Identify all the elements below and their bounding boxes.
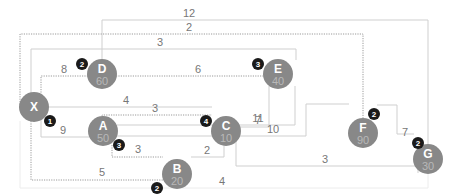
edges-layer: [20, 20, 428, 188]
node-letter: F: [359, 121, 366, 135]
node-e[interactable]: E40: [263, 59, 293, 89]
edge-weight-label: 2: [186, 21, 192, 33]
edge-weight-label: 3: [157, 36, 163, 48]
order-badge-a: 3: [113, 139, 125, 151]
edge-weight-label: 4: [123, 94, 129, 106]
order-badge-b: 2: [151, 182, 163, 194]
node-letter: A: [99, 119, 108, 133]
badge-number: 2: [155, 184, 160, 193]
badge-number: 2: [372, 110, 377, 119]
edge-x-e: [31, 49, 296, 93]
badge-number: 1: [48, 117, 53, 126]
edge-f-g: [377, 105, 414, 134]
edge-weight-label: 5: [99, 166, 105, 178]
node-letter: D: [98, 62, 107, 76]
edge-weight-label: 3: [135, 143, 141, 155]
edge-weight-label: 9: [60, 124, 66, 136]
edge-a-c: [102, 115, 212, 117]
edge-weight-label: 3: [322, 153, 328, 165]
edge-weight-label: 4: [219, 175, 225, 187]
node-letter: C: [222, 119, 231, 133]
node-letter: B: [173, 162, 182, 176]
edge-weight-label: 8: [61, 63, 67, 75]
network-diagram: 12238643791110327354 X1D602E403C104F902G…: [0, 0, 455, 196]
badge-number: 2: [416, 139, 421, 148]
edge-weight-label: 3: [152, 102, 158, 114]
node-value: 10: [220, 132, 232, 144]
badge-number: 3: [117, 141, 122, 150]
edge-weight-label: 11: [252, 112, 263, 124]
badge-number: 3: [256, 60, 261, 69]
node-letter: G: [423, 147, 432, 161]
node-d[interactable]: D60: [87, 59, 117, 89]
node-b[interactable]: B20: [162, 159, 192, 189]
badge-number: 2: [80, 60, 85, 69]
node-f[interactable]: F90: [348, 118, 378, 148]
node-letter: E: [274, 62, 282, 76]
node-value: 30: [422, 160, 434, 172]
node-value: 20: [171, 175, 183, 187]
order-badge-c: 4: [200, 115, 212, 127]
edge-weight-label: 12: [183, 7, 195, 19]
order-badge-e: 3: [252, 58, 264, 70]
edge-weight-label: 6: [195, 63, 201, 75]
order-badge-f: 2: [368, 108, 380, 120]
edge-weight-label: 7: [402, 126, 408, 138]
edge-weight-label: 10: [267, 123, 279, 135]
node-a[interactable]: A50: [88, 116, 118, 146]
order-badge-g: 2: [412, 137, 424, 149]
node-value: 60: [96, 75, 108, 87]
node-value: 90: [357, 134, 369, 146]
node-value: 40: [272, 75, 284, 87]
badge-number: 4: [204, 117, 209, 126]
edge-d-g: [102, 20, 428, 145]
nodes-layer: X1D602E403C104F902G302A503B202: [19, 58, 443, 194]
node-letter: X: [30, 100, 38, 114]
edge-weight-label: 2: [204, 144, 210, 156]
order-badge-d: 2: [76, 58, 88, 70]
node-x[interactable]: X: [19, 92, 49, 122]
node-c[interactable]: C10: [211, 116, 241, 146]
node-value: 50: [97, 132, 109, 144]
order-badge-x: 1: [44, 115, 56, 127]
